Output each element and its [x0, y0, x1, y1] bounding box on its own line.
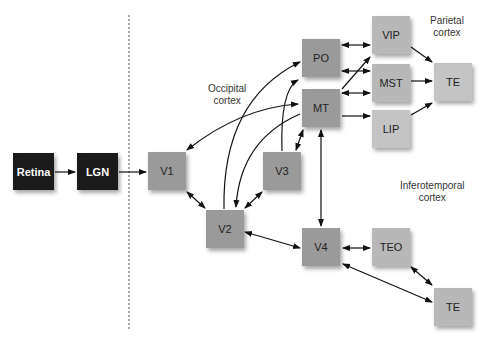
- node-v2: V2: [206, 210, 244, 248]
- node-te-parietal: TE: [434, 63, 472, 101]
- connections-layer: [0, 0, 488, 341]
- label-parietal-cortex: Parietal cortex: [430, 15, 464, 39]
- node-mt: MT: [302, 89, 340, 127]
- node-v1: V1: [148, 152, 186, 190]
- node-lgn: LGN: [77, 153, 118, 190]
- node-mst: MST: [372, 64, 410, 102]
- node-lip: LIP: [372, 110, 410, 148]
- node-retina: Retina: [13, 153, 54, 190]
- node-vip: VIP: [372, 16, 410, 54]
- label-occipital-cortex: Occipital cortex: [208, 83, 246, 107]
- node-v3: V3: [263, 152, 301, 190]
- node-v4: V4: [302, 228, 340, 266]
- node-teo: TEO: [372, 228, 410, 266]
- node-po: PO: [302, 39, 340, 77]
- node-te-temporal: TE: [434, 288, 472, 326]
- label-inferotemporal-cortex: Inferotemporal cortex: [400, 180, 464, 204]
